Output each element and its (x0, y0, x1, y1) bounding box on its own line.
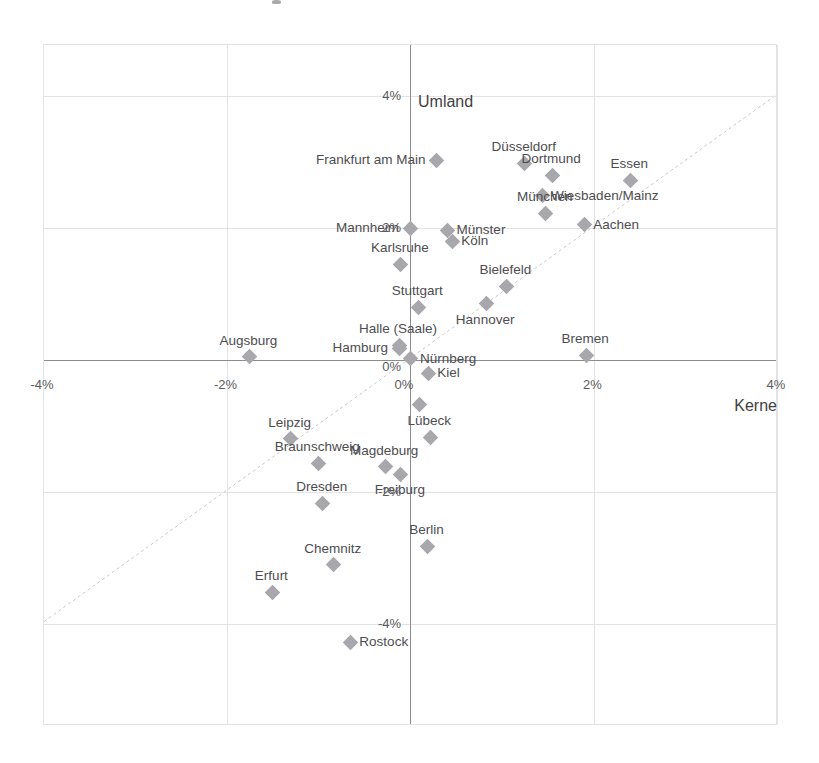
data-point-marker[interactable] (402, 220, 418, 236)
y-tick-label: 2% (382, 220, 401, 235)
data-point-label: Bielefeld (479, 262, 531, 277)
data-point-marker[interactable] (622, 173, 638, 189)
y-axis-title: Umland (418, 93, 473, 111)
data-point-marker[interactable] (326, 557, 342, 573)
data-point-label: Stuttgart (392, 283, 443, 298)
data-point-marker[interactable] (315, 495, 331, 511)
scatter-chart: Frankfurt am MainDüsseldorfDortmundEssen… (0, 0, 819, 763)
x-tick-label: -4% (30, 377, 53, 392)
data-point-marker[interactable] (411, 397, 427, 413)
data-point-marker[interactable] (393, 257, 409, 273)
data-point-marker[interactable] (242, 349, 258, 365)
data-point-marker[interactable] (343, 635, 359, 651)
data-point-marker[interactable] (311, 455, 327, 471)
x-tick-label: 4% (767, 377, 786, 392)
data-point-label: Leipzig (268, 415, 311, 430)
data-point-label: Kiel (437, 365, 460, 380)
data-point-marker[interactable] (420, 538, 436, 554)
x-tick-label: -2% (214, 377, 237, 392)
scan-artifact (272, 0, 281, 4)
data-point-label: Erfurt (255, 568, 288, 583)
data-point-marker[interactable] (544, 167, 560, 183)
data-point-label: Dortmund (522, 151, 581, 166)
data-point-label: Essen (610, 156, 648, 171)
data-point-marker[interactable] (393, 466, 409, 482)
data-point-label: Hannover (456, 312, 515, 327)
data-point-label: Köln (461, 233, 488, 248)
data-point-label: Braunschweig (275, 439, 360, 454)
y-tick-label: 4% (382, 88, 401, 103)
data-point-marker[interactable] (411, 299, 427, 315)
data-point-label: Bremen (562, 331, 609, 346)
data-point-marker[interactable] (422, 429, 438, 445)
data-point-marker[interactable] (499, 278, 515, 294)
data-point-label: Lübeck (407, 413, 451, 428)
x-axis-title: Kerne (734, 397, 777, 415)
data-point-label: Augsburg (220, 333, 278, 348)
data-point-label: Aachen (593, 216, 639, 231)
x-tick-label: 2% (583, 377, 602, 392)
data-point-label: Hamburg (332, 340, 388, 355)
data-point-label: München (517, 189, 573, 204)
data-point-label: Berlin (409, 522, 444, 537)
data-point-marker[interactable] (478, 296, 494, 312)
data-point-label: Dresden (296, 479, 347, 494)
data-point-label: Halle (Saale) (359, 321, 437, 336)
data-point-marker[interactable] (538, 206, 554, 222)
data-point-marker[interactable] (377, 459, 393, 475)
y-tick-label: -4% (378, 616, 401, 631)
data-point-marker[interactable] (403, 351, 419, 367)
x-tick-label: 0% (395, 377, 414, 392)
y-tick-label: -2% (378, 484, 401, 499)
data-point-marker[interactable] (577, 217, 593, 233)
data-point-label: Magdeburg (350, 443, 418, 458)
data-point-marker[interactable] (429, 152, 445, 168)
data-point-label: Frankfurt am Main (316, 152, 426, 167)
data-point-marker[interactable] (265, 585, 281, 601)
data-point-label: Nürnberg (420, 350, 476, 365)
data-point-label: Chemnitz (304, 541, 361, 556)
data-point-marker[interactable] (421, 365, 437, 381)
y-tick-label: 0% (382, 359, 401, 374)
data-point-label: Karlsruhe (371, 240, 429, 255)
data-point-label: Rostock (359, 634, 408, 649)
